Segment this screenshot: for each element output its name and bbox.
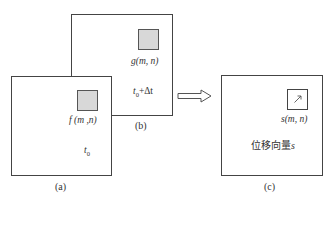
arrow-right-icon <box>177 89 213 103</box>
time-suffix-b: +Δt <box>139 86 153 96</box>
time-sub-a: 0 <box>87 150 90 157</box>
label-f: f (m ,n) <box>69 115 97 125</box>
vector-symbol: s <box>291 140 295 151</box>
label-s: s(m, n) <box>281 114 307 124</box>
label-time-b: t0+Δt <box>133 86 153 98</box>
caption-a: (a) <box>55 181 66 192</box>
patch-g <box>138 29 159 50</box>
caption-b: (b) <box>135 120 147 131</box>
patch-f <box>77 90 98 111</box>
caption-c: (c) <box>264 181 275 192</box>
label-g: g(m, n) <box>131 56 158 66</box>
vector-text: 位移向量 <box>251 140 291 151</box>
displacement-vector-label: 位移向量s <box>251 137 295 152</box>
label-time-a: t0 <box>84 145 90 157</box>
displacement-arrow-icon <box>293 94 303 104</box>
